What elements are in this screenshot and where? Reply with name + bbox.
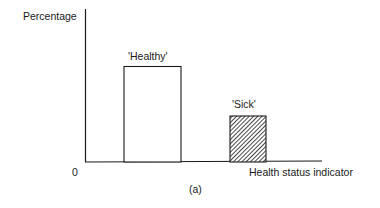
x-axis: [85, 161, 322, 162]
y-axis-label: Percentage: [23, 11, 77, 22]
bar-label-sick: 'Sick': [232, 99, 256, 110]
panel-label: (a): [189, 184, 202, 195]
bar-healthy: [124, 67, 181, 163]
bar-sick: [230, 116, 266, 162]
x-axis-label: Health status indicator: [249, 167, 353, 178]
origin-label: 0: [72, 167, 78, 178]
bar-label-healthy: 'Healthy': [128, 51, 168, 62]
